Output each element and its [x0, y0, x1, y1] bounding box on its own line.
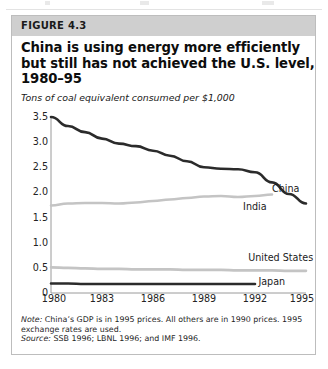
page-artifact: [140, 1, 149, 5]
note-line-1: Note: China’s GDP is in 1995 prices. All…: [21, 315, 309, 325]
series-line-china: [51, 117, 306, 203]
x-tick-1995: 1995: [290, 293, 314, 304]
x-tick-1980: 1980: [42, 293, 66, 304]
figure-container: FIGURE 4.3 China is using energy more ef…: [11, 15, 316, 355]
x-tick-1983: 1983: [90, 293, 114, 304]
source-kicker: Source:: [21, 334, 51, 343]
page-artifact: [262, 1, 274, 5]
series-label-china: China: [272, 183, 299, 194]
note-text-1: China’s GDP is in 1995 prices. All other…: [42, 315, 302, 324]
figure-title-line-3: 1980–95: [21, 71, 306, 87]
x-tick-1992: 1992: [243, 293, 267, 304]
figure-root: FIGURE 4.3 China is using energy more ef…: [0, 0, 328, 369]
x-tick-1986: 1986: [141, 293, 165, 304]
series-label-india: India: [243, 201, 267, 212]
figure-title-line-1: China is using energy more efficiently: [21, 40, 306, 56]
figure-title-line-2: but still has not achieved the U.S. leve…: [21, 56, 306, 72]
chart-plot-area: 00.51.01.52.02.53.03.5 19801983198619891…: [21, 112, 308, 309]
source-text: SSB 1996; LBNL 1996; and IMF 1996.: [51, 334, 201, 343]
series-line-india: [51, 194, 272, 205]
note-line-2: exchange rates are used.: [21, 325, 309, 335]
x-axis-tick-labels: 198019831986198919921995: [21, 293, 308, 307]
page-artifact: [45, 1, 50, 5]
series-line-japan: [51, 283, 255, 284]
series-label-united-states: United States: [248, 252, 313, 263]
figure-number-label: FIGURE 4.3: [21, 20, 87, 31]
series-label-japan: Japan: [258, 276, 285, 287]
source-line: Source: SSB 1996; LBNL 1996; and IMF 199…: [21, 334, 309, 344]
figure-title: China is using energy more efficiently b…: [21, 40, 306, 87]
figure-number-band: FIGURE 4.3: [12, 16, 315, 36]
figure-footnotes: Note: China’s GDP is in 1995 prices. All…: [21, 315, 309, 344]
x-tick-1989: 1989: [192, 293, 216, 304]
series-line-united-states: [51, 267, 306, 271]
note-kicker: Note:: [21, 315, 42, 324]
page-rule: [6, 9, 322, 10]
figure-subtitle: Tons of coal equivalent consumed per $1,…: [21, 92, 235, 103]
